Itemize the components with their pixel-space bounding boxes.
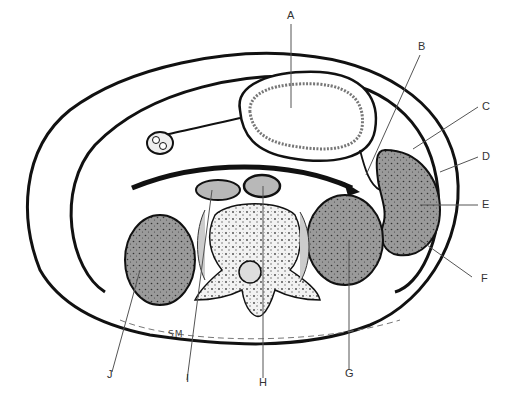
aorta xyxy=(244,175,280,197)
label-D: D xyxy=(482,151,490,162)
spinal-cord xyxy=(239,261,261,283)
left-kidney xyxy=(307,195,383,285)
spleen xyxy=(377,150,440,255)
transverse-colon xyxy=(147,132,173,154)
label-B: B xyxy=(418,41,425,52)
cross-section-drawing xyxy=(0,0,505,398)
label-G: G xyxy=(345,368,354,379)
inferior-vena-cava xyxy=(196,180,240,200)
label-H: H xyxy=(259,377,267,388)
label-F: F xyxy=(481,273,488,284)
artist-signature: SM xyxy=(168,329,183,339)
label-E: E xyxy=(482,199,489,210)
anatomy-cross-section-figure: A B C D E F G H I J SM xyxy=(0,0,505,398)
label-I: I xyxy=(186,373,189,384)
label-A: A xyxy=(287,10,294,21)
label-J: J xyxy=(107,369,113,380)
omental-foramen-arrow xyxy=(132,167,352,188)
label-C: C xyxy=(482,101,490,112)
right-kidney xyxy=(125,215,195,305)
